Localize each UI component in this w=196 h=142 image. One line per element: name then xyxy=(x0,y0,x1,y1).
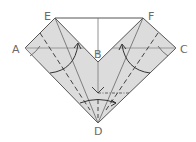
label-F: F xyxy=(148,11,154,22)
label-E: E xyxy=(44,11,51,22)
label-C: C xyxy=(180,44,188,55)
label-A: A xyxy=(12,44,20,55)
label-B: B xyxy=(94,49,102,60)
origami-diagram xyxy=(0,0,196,142)
paper-shape xyxy=(25,18,176,123)
label-D: D xyxy=(94,126,102,137)
